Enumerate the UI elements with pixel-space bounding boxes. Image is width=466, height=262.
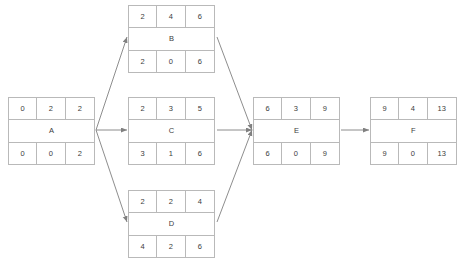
node-d-label: D bbox=[129, 213, 214, 235]
node-d-duration: 2 bbox=[157, 191, 185, 212]
node-e-late-finish: 9 bbox=[311, 143, 339, 164]
node-b[interactable]: 2 4 6 B 2 0 6 bbox=[128, 5, 215, 73]
node-f-duration: 4 bbox=[399, 98, 427, 119]
node-c-label: C bbox=[129, 120, 214, 142]
node-b-early-finish: 6 bbox=[186, 6, 214, 27]
node-d-early-start: 2 bbox=[129, 191, 157, 212]
network-diagram-canvas: 0 2 2 A 0 0 2 2 4 6 B 2 0 6 2 3 5 C bbox=[0, 0, 466, 262]
node-a-label: A bbox=[9, 120, 94, 142]
node-c[interactable]: 2 3 5 C 3 1 6 bbox=[128, 97, 215, 165]
node-a-early-start: 0 bbox=[9, 98, 37, 119]
node-e-early-start: 6 bbox=[254, 98, 282, 119]
node-f[interactable]: 9 4 13 F 9 0 13 bbox=[370, 97, 457, 165]
edge-d-to-e bbox=[217, 130, 252, 222]
edge-a-to-d bbox=[96, 130, 127, 222]
node-c-late-start: 3 bbox=[129, 143, 157, 164]
node-c-top-row: 2 3 5 bbox=[129, 98, 214, 120]
node-d-slack: 2 bbox=[157, 236, 185, 257]
node-e[interactable]: 6 3 9 E 6 0 9 bbox=[253, 97, 340, 165]
node-d-early-finish: 4 bbox=[186, 191, 214, 212]
node-d-late-start: 4 bbox=[129, 236, 157, 257]
node-b-late-start: 2 bbox=[129, 51, 157, 72]
node-f-bottom-row: 9 0 13 bbox=[371, 142, 456, 164]
node-b-duration: 4 bbox=[157, 6, 185, 27]
node-e-duration: 3 bbox=[282, 98, 310, 119]
edge-a-to-b bbox=[96, 37, 127, 130]
node-f-top-row: 9 4 13 bbox=[371, 98, 456, 120]
node-e-early-finish: 9 bbox=[311, 98, 339, 119]
node-d-bottom-row: 4 2 6 bbox=[129, 235, 214, 257]
node-c-early-start: 2 bbox=[129, 98, 157, 119]
node-b-top-row: 2 4 6 bbox=[129, 6, 214, 28]
node-d-top-row: 2 2 4 bbox=[129, 191, 214, 213]
node-c-late-finish: 6 bbox=[186, 143, 214, 164]
node-a-duration: 2 bbox=[37, 98, 65, 119]
node-f-late-start: 9 bbox=[371, 143, 399, 164]
node-a-slack: 0 bbox=[37, 143, 65, 164]
node-a-late-start: 0 bbox=[9, 143, 37, 164]
node-c-early-finish: 5 bbox=[186, 98, 214, 119]
node-d-late-finish: 6 bbox=[186, 236, 214, 257]
node-f-late-finish: 13 bbox=[428, 143, 456, 164]
node-d[interactable]: 2 2 4 D 4 2 6 bbox=[128, 190, 215, 258]
node-a-early-finish: 2 bbox=[66, 98, 94, 119]
node-b-label: B bbox=[129, 28, 214, 50]
node-e-top-row: 6 3 9 bbox=[254, 98, 339, 120]
node-f-early-start: 9 bbox=[371, 98, 399, 119]
node-e-late-start: 6 bbox=[254, 143, 282, 164]
node-f-slack: 0 bbox=[399, 143, 427, 164]
node-c-bottom-row: 3 1 6 bbox=[129, 142, 214, 164]
edge-b-to-e bbox=[217, 37, 252, 130]
node-e-bottom-row: 6 0 9 bbox=[254, 142, 339, 164]
node-a-bottom-row: 0 0 2 bbox=[9, 142, 94, 164]
node-c-duration: 3 bbox=[157, 98, 185, 119]
node-e-slack: 0 bbox=[282, 143, 310, 164]
node-b-late-finish: 6 bbox=[186, 51, 214, 72]
node-f-label: F bbox=[371, 120, 456, 142]
node-e-label: E bbox=[254, 120, 339, 142]
node-a-top-row: 0 2 2 bbox=[9, 98, 94, 120]
node-b-bottom-row: 2 0 6 bbox=[129, 50, 214, 72]
node-c-slack: 1 bbox=[157, 143, 185, 164]
node-a[interactable]: 0 2 2 A 0 0 2 bbox=[8, 97, 95, 165]
node-b-early-start: 2 bbox=[129, 6, 157, 27]
node-f-early-finish: 13 bbox=[428, 98, 456, 119]
node-a-late-finish: 2 bbox=[66, 143, 94, 164]
node-b-slack: 0 bbox=[157, 51, 185, 72]
